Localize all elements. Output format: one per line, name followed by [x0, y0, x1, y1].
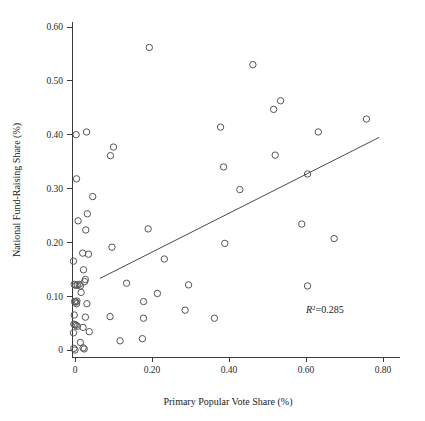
data-point: [250, 61, 256, 67]
data-point: [299, 221, 305, 227]
y-tick-label: 0: [58, 345, 63, 355]
data-point: [70, 330, 76, 336]
r-squared-label: R2=0.285: [305, 304, 344, 316]
x-tick-label: 0.80: [375, 365, 392, 375]
data-point: [185, 282, 191, 288]
data-point: [140, 315, 146, 321]
data-point: [363, 116, 369, 122]
y-tick-label: 0.30: [46, 184, 63, 194]
y-tick-label: 0.60: [46, 22, 63, 32]
r-squared-symbol: R: [305, 304, 312, 315]
data-point: [161, 256, 167, 262]
data-point: [78, 289, 84, 295]
data-point: [83, 227, 89, 233]
data-point: [73, 176, 79, 182]
data-point: [80, 267, 86, 273]
trend-line: [100, 137, 379, 278]
data-point: [217, 124, 223, 130]
data-point: [140, 298, 146, 304]
x-tick-label: 0.40: [221, 365, 238, 375]
data-point: [277, 98, 283, 104]
x-axis-tick-labels: 00.200.400.600.80: [73, 365, 392, 375]
data-point: [75, 218, 81, 224]
data-point: [86, 329, 92, 335]
y-tick-label: 0.50: [46, 76, 63, 86]
data-point: [272, 152, 278, 158]
chart-canvas: 00.200.400.600.80 00.100.200.300.400.500…: [0, 0, 425, 421]
data-point: [70, 258, 76, 264]
data-point: [84, 211, 90, 217]
x-axis-ticks: [75, 357, 383, 362]
data-point: [72, 347, 78, 353]
y-tick-label: 0.10: [46, 292, 63, 302]
data-point: [90, 193, 96, 199]
y-tick-label: 0.20: [46, 238, 63, 248]
data-point: [331, 235, 337, 241]
data-point: [83, 129, 89, 135]
x-tick-label: 0.60: [298, 365, 315, 375]
data-point: [304, 283, 310, 289]
r-squared-annotation: R2=0.285: [305, 304, 344, 316]
data-point: [154, 290, 160, 296]
data-point: [110, 144, 116, 150]
data-point: [270, 106, 276, 112]
data-point: [107, 313, 113, 319]
data-point: [237, 186, 243, 192]
data-point: [145, 226, 151, 232]
data-point: [107, 152, 113, 158]
data-point: [109, 244, 115, 250]
scatter-plot-figure: 00.200.400.600.80 00.100.200.300.400.500…: [0, 0, 425, 421]
x-tick-label: 0.20: [144, 365, 161, 375]
data-point: [84, 301, 90, 307]
data-point: [123, 280, 129, 286]
x-tick-label: 0: [73, 365, 78, 375]
data-point: [82, 314, 88, 320]
y-tick-label: 0.40: [46, 130, 63, 140]
data-point: [117, 338, 123, 344]
x-axis-title: Primary Popular Vote Share (%): [163, 396, 292, 408]
r-squared-value: =0.285: [316, 304, 344, 315]
axis-lines: [72, 22, 400, 357]
data-point: [220, 164, 226, 170]
data-point: [315, 129, 321, 135]
data-point: [139, 335, 145, 341]
y-axis-title: National Fund-Raising Share (%): [11, 123, 23, 257]
y-axis-tick-labels: 00.100.200.300.400.500.60: [46, 22, 63, 355]
data-point: [73, 131, 79, 137]
data-point: [222, 240, 228, 246]
data-point: [146, 44, 152, 50]
regression-line: [100, 137, 379, 278]
data-point: [211, 315, 217, 321]
data-point: [182, 307, 188, 313]
